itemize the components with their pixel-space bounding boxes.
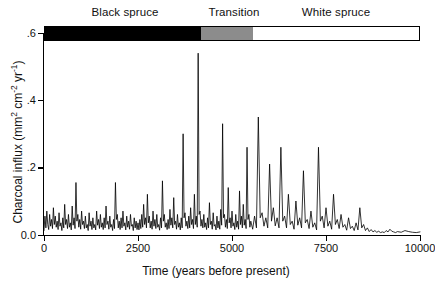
charcoal-influx-line <box>44 53 420 232</box>
